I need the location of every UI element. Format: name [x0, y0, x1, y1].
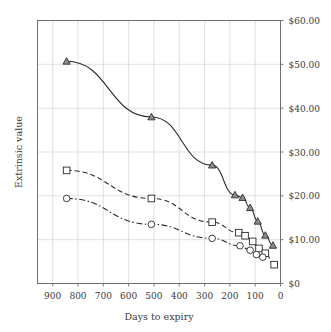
y-tick-label: $50.00	[289, 60, 321, 70]
x-axis-label: Days to expiry	[124, 311, 194, 322]
y-tick-label: $40.00	[289, 104, 321, 114]
marker-square	[271, 261, 278, 268]
x-tick-label: 700	[95, 291, 112, 301]
marker-square	[242, 232, 249, 239]
marker-circle	[259, 254, 266, 261]
marker-circle	[63, 195, 70, 202]
marker-circle	[237, 243, 244, 250]
y-tick-label: $30.00	[289, 148, 321, 158]
y-tick-label: $0	[289, 279, 301, 289]
marker-square	[63, 167, 70, 174]
x-tick-label: 0	[278, 291, 284, 301]
marker-square	[148, 195, 155, 202]
x-tick-label: 300	[196, 291, 213, 301]
marker-square	[209, 219, 216, 226]
marker-circle	[209, 235, 216, 242]
marker-circle	[247, 247, 254, 254]
x-tick-label: 400	[171, 291, 188, 301]
x-tick-label: 600	[120, 291, 137, 301]
x-tick-label: 800	[69, 291, 86, 301]
x-tick-label: 900	[44, 291, 61, 301]
y-tick-label: $10.00	[289, 235, 321, 245]
chart-container: 9008007006005004003002001000 $60.00$50.0…	[0, 0, 331, 332]
marker-square	[249, 238, 256, 245]
y-axis-label: Extrinsic value	[13, 116, 24, 188]
y-tick-label: $20.00	[289, 191, 321, 201]
marker-circle	[148, 221, 155, 228]
x-tick-label: 200	[221, 291, 238, 301]
marker-circle	[253, 251, 260, 258]
marker-square	[235, 229, 242, 236]
x-tick-label: 100	[247, 291, 264, 301]
x-tick-label: 500	[145, 291, 162, 301]
extrinsic-value-line-chart: 9008007006005004003002001000 $60.00$50.0…	[0, 0, 331, 332]
chart-background	[0, 0, 331, 332]
y-tick-label: $60.00	[289, 16, 321, 26]
marker-square	[256, 245, 263, 252]
